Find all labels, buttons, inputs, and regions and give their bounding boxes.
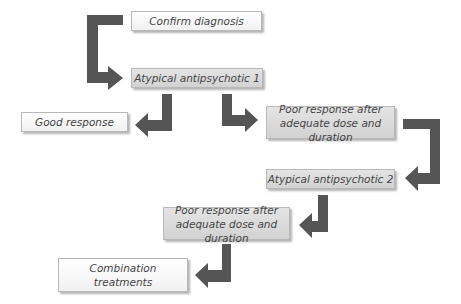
node-poor-response-1: Poor response after adequate dose and du… [266, 106, 395, 139]
node-combination-treatments: Combination treatments [58, 258, 188, 292]
arrow-atypical1-to-poor1 [222, 94, 258, 132]
node-atypical-antipsychotic-2: Atypical antipsychotic 2 [266, 169, 395, 189]
arrow-confirm-to-atypical1 [87, 15, 123, 90]
node-confirm-diagnosis: Confirm diagnosis [131, 11, 262, 31]
node-poor-response-2: Poor response after adequate dose and du… [163, 207, 290, 240]
node-atypical-antipsychotic-1: Atypical antipsychotic 1 [131, 68, 263, 88]
node-good-response: Good response [21, 112, 128, 132]
arrow-poor2-to-combination [195, 244, 231, 288]
arrow-atypical2-to-poor2 [299, 195, 328, 238]
arrow-poor1-to-atypical2 [403, 119, 440, 191]
arrow-atypical1-to-good [135, 94, 172, 137]
